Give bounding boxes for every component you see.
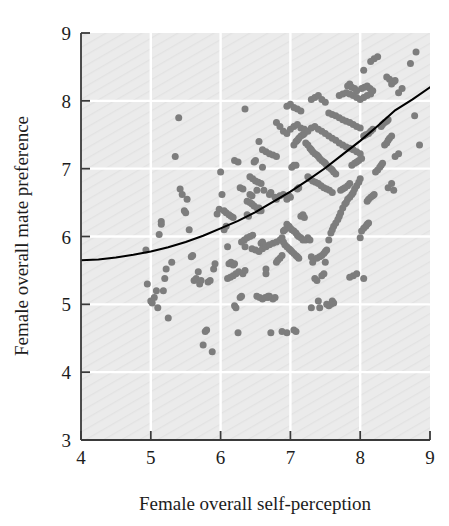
chart-canvas: 3456789 456789 Female overall self-perce… — [0, 0, 449, 526]
scatter-point — [195, 268, 202, 275]
scatter-point — [198, 277, 205, 284]
scatter-point — [168, 259, 175, 266]
scatter-point — [357, 124, 364, 131]
scatter-point — [165, 314, 172, 321]
y-tick-label: 5 — [62, 294, 72, 315]
scatter-point — [360, 67, 367, 74]
scatter-point — [163, 266, 170, 273]
scatter-point — [395, 89, 402, 96]
scatter-point — [360, 275, 367, 282]
scatter-point — [320, 270, 327, 277]
scatter-point — [156, 231, 163, 238]
scatter-point — [272, 294, 279, 301]
scatter-point — [218, 191, 225, 198]
scatter-point — [182, 209, 189, 216]
scatter-point — [253, 187, 260, 194]
scatter-point — [346, 274, 353, 281]
scatter-point — [292, 162, 299, 169]
scatter-point — [299, 236, 306, 243]
scatter-point — [322, 99, 329, 106]
scatter-point — [306, 236, 313, 243]
scatter-point — [239, 186, 246, 193]
scatter-point — [267, 329, 274, 336]
scatter-point — [388, 180, 395, 187]
scatter-point — [407, 60, 414, 67]
scatter-point — [151, 294, 158, 301]
scatter-point — [379, 160, 386, 167]
scatter-point — [357, 175, 364, 182]
scatter-plot-figure: 3456789 456789 Female overall self-perce… — [0, 0, 449, 526]
x-tick-label: 9 — [425, 447, 435, 468]
scatter-point — [369, 87, 376, 94]
scatter-point — [395, 150, 402, 157]
scatter-point — [160, 287, 167, 294]
scatter-point — [413, 48, 420, 55]
scatter-point — [273, 153, 280, 160]
scatter-point — [295, 255, 302, 262]
scatter-point — [230, 214, 237, 221]
scatter-point — [144, 280, 151, 287]
scatter-point — [358, 155, 365, 162]
scatter-point — [323, 301, 330, 308]
scatter-point — [212, 260, 219, 267]
scatter-point — [153, 287, 160, 294]
scatter-point — [292, 328, 299, 335]
x-tick-label: 6 — [216, 447, 226, 468]
y-tick-label: 4 — [62, 362, 72, 383]
scatter-point — [154, 304, 161, 311]
scatter-point — [308, 304, 315, 311]
scatter-point — [371, 191, 378, 198]
scatter-point — [175, 114, 182, 121]
scatter-point — [249, 192, 256, 199]
scatter-point — [416, 141, 423, 148]
scatter-point — [235, 158, 242, 165]
x-tick-label: 8 — [355, 447, 365, 468]
y-tick-label: 7 — [62, 159, 72, 180]
scatter-point — [209, 348, 216, 355]
scatter-point — [189, 252, 196, 259]
scatter-point — [235, 329, 242, 336]
scatter-point — [262, 270, 269, 277]
scatter-point — [287, 194, 294, 201]
y-tick-label: 9 — [62, 23, 72, 44]
scatter-point — [390, 187, 397, 194]
x-axis-title: Female overall self-perception — [139, 493, 372, 514]
scatter-point — [158, 221, 165, 228]
scatter-point — [200, 342, 207, 349]
scatter-point — [260, 187, 267, 194]
scatter-point — [332, 171, 339, 178]
y-tick-label: 8 — [62, 91, 72, 112]
scatter-point — [224, 243, 231, 250]
scatter-point — [242, 105, 249, 112]
scatter-point — [297, 108, 304, 115]
scatter-point — [374, 53, 381, 60]
scatter-point — [353, 270, 360, 277]
y-axis-title: Female overall mate preference — [11, 116, 32, 356]
scatter-point — [172, 153, 179, 160]
scatter-point — [367, 58, 374, 65]
scatter-point — [232, 304, 239, 311]
scatter-point — [346, 180, 353, 187]
scatter-point — [388, 133, 395, 140]
y-tick-label: 3 — [62, 430, 72, 451]
scatter-point — [365, 219, 372, 226]
scatter-point — [411, 112, 418, 119]
scatter-point — [203, 327, 210, 334]
scatter-point — [249, 232, 256, 239]
scatter-point — [255, 138, 262, 145]
scatter-point — [161, 275, 168, 282]
scatter-point — [313, 255, 320, 262]
x-tick-label: 4 — [76, 447, 86, 468]
scatter-point — [252, 157, 259, 164]
scatter-point — [301, 214, 308, 221]
scatter-point — [238, 293, 245, 300]
scatter-point — [357, 234, 364, 241]
scatter-point — [279, 252, 286, 259]
scatter-point — [231, 260, 238, 267]
scatter-point — [316, 304, 323, 311]
scatter-point — [322, 248, 329, 255]
scatter-point — [184, 196, 191, 203]
y-tick-label: 6 — [62, 227, 72, 248]
x-tick-label: 5 — [146, 447, 156, 468]
scatter-point — [315, 297, 322, 304]
